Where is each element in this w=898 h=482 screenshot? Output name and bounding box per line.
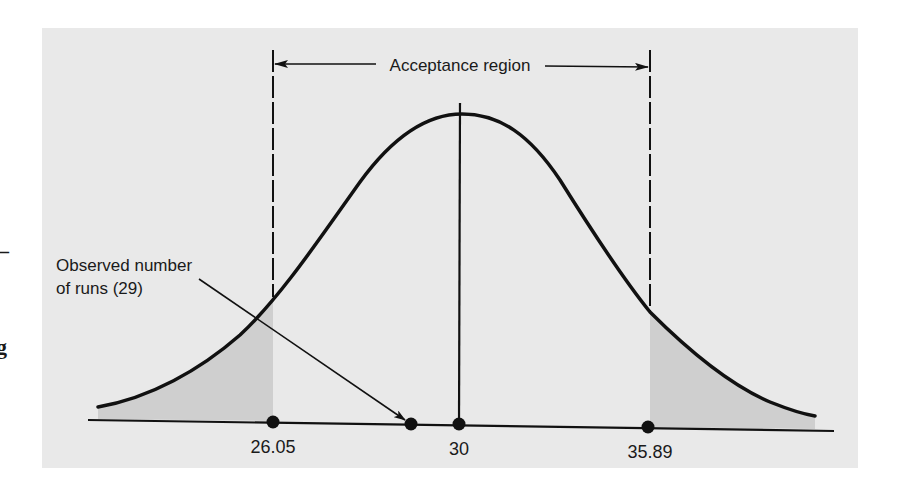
normal-curve-diagram: Acceptance region Observed number of run… (0, 0, 898, 482)
observed-label-line2: of runs (29) (56, 279, 143, 298)
lower-critical-point (267, 416, 280, 429)
mean-vertical-line (459, 103, 460, 424)
tick-label-upper: 35.89 (627, 442, 672, 462)
tick-label-lower: 26.05 (250, 437, 295, 457)
right-rejection-region (650, 312, 815, 429)
figure-stage: – g Acceptance region Observed nu (0, 0, 898, 482)
mean-point (453, 418, 466, 431)
observed-point (405, 418, 418, 431)
acceptance-arrow-right (545, 66, 648, 67)
upper-critical-point (642, 421, 655, 434)
acceptance-region-label: Acceptance region (390, 56, 531, 75)
tick-label-mean: 30 (449, 439, 469, 459)
observed-label-line1: Observed number (56, 256, 192, 275)
